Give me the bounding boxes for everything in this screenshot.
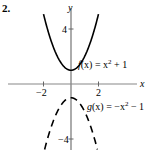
y-tick-label-4: 4	[62, 24, 67, 35]
y-tick-label-neg4: −4	[58, 134, 69, 145]
g-label: g(x) = −x2 − 1	[87, 100, 144, 113]
problem-number: 2.	[2, 2, 11, 14]
f-label: f(x) = x2 + 1	[78, 58, 127, 71]
x-axis-label: x	[139, 78, 145, 89]
y-axis-label: y	[67, 2, 73, 13]
function-graph: 2. x y −2 2 4 −4 f(x) = x2 + 1 g(x) = −x…	[0, 0, 152, 150]
x-tick-label-2: 2	[96, 87, 101, 98]
x-tick-label-neg2: −2	[36, 87, 47, 98]
